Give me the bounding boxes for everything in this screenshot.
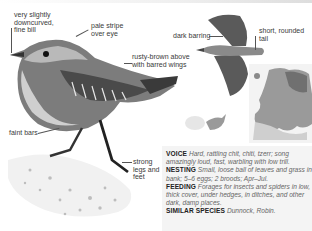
info-feeding: FEEDING Forages for insects and spiders …: [166, 183, 312, 208]
leader-upperparts: [124, 63, 132, 64]
label-legs: stronglegs andfeet: [133, 158, 159, 181]
info-nesting: NESTING Small, loose ball of leaves and …: [166, 166, 312, 182]
europe-range-map: [249, 64, 312, 143]
info-voice: VOICE Hard, rattling chit, chiti, tzerr;…: [166, 150, 312, 166]
label-eye-stripe: pale stripeover eye: [91, 22, 123, 37]
label-bill: very slightlydowncurved,fine bill: [14, 11, 54, 34]
label-upperparts: rusty-brown abovewith barred wings: [132, 53, 190, 68]
label-dark-barring: dark barring: [173, 32, 210, 40]
label-faint-bars: faint bars: [9, 129, 38, 137]
leader-dark-barring: [209, 36, 223, 37]
leader-tail: [255, 36, 256, 50]
info-similar-species: SIMILAR SPECIES Dunnock, Robin.: [166, 207, 312, 215]
leader-legs: [122, 162, 132, 163]
label-tail: short, roundedtail: [259, 27, 304, 42]
size-comparison-silhouette-icon: [185, 114, 226, 130]
species-info: VOICE Hard, rattling chit, chiti, tzerr;…: [166, 150, 312, 216]
rock-perch: [8, 154, 131, 216]
leader-bill: [11, 28, 12, 53]
